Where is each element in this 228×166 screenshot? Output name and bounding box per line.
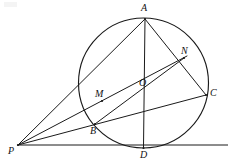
segment-a-c (145, 19, 206, 95)
point-label-c: C (210, 88, 217, 98)
point-label-d: D (140, 150, 147, 160)
segment-a-b-p (18, 19, 145, 145)
geometry-figure: ANCOMBDP (0, 0, 228, 166)
segment-p-c (18, 95, 206, 145)
vertex-point-p (17, 144, 19, 146)
vertex-point-a (144, 18, 146, 20)
point-label-p: P (8, 146, 14, 156)
point-label-m: M (95, 89, 103, 99)
segment-b-n (95, 58, 184, 124)
point-label-a: A (141, 3, 147, 13)
point-label-o: O (139, 78, 146, 88)
vertex-point-c (205, 94, 207, 96)
vertex-point-n (183, 57, 185, 59)
figure-canvas (0, 0, 228, 166)
point-label-n: N (181, 46, 188, 56)
vertices-group (17, 18, 207, 149)
vertex-point-m (101, 100, 103, 102)
segments-group (18, 19, 228, 148)
point-label-b: B (90, 126, 96, 136)
